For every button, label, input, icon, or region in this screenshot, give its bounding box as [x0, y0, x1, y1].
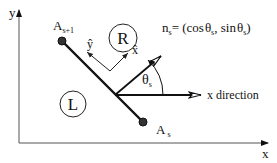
angle-label: θs	[142, 72, 152, 89]
point-a-s	[139, 118, 147, 126]
x-hat-arrow	[110, 53, 128, 71]
local-axes: ŷ x̂	[87, 37, 138, 71]
region-left: L	[60, 91, 86, 117]
segment: As+1 As	[53, 18, 171, 139]
normal-equation: ns= (cosθs, sinθs)	[162, 20, 251, 37]
label-a-s-plus-1: As+1	[53, 18, 74, 35]
region-left-label: L	[68, 95, 78, 114]
x-hat-label: x̂	[132, 43, 138, 57]
x-axis-label: x	[262, 146, 269, 161]
y-axis-label: y	[9, 5, 16, 20]
x-direction-label: x direction	[207, 88, 259, 102]
segment-normal-diagram: y x As+1 As R L ŷ x̂ ns= (cosθs, sinθs)	[0, 0, 277, 163]
angle-theta: θs	[142, 60, 163, 95]
label-a-s: As	[156, 122, 171, 139]
region-right-label: R	[117, 29, 129, 48]
point-a-s-plus-1	[58, 37, 66, 45]
x-direction: x direction	[115, 88, 259, 102]
normal-arrow	[115, 56, 161, 95]
y-hat-label: ŷ	[87, 37, 93, 51]
